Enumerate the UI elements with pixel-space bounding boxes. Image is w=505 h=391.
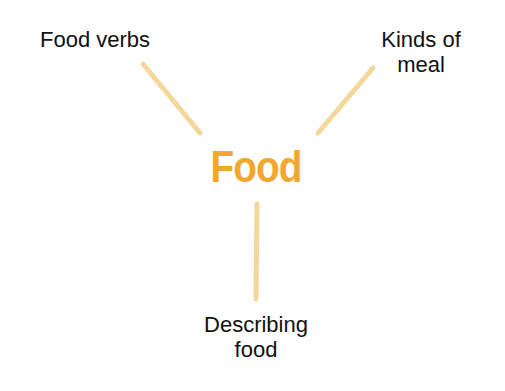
branch-label-line-2: meal [366, 52, 476, 77]
central-topic: Food [203, 142, 309, 192]
connector-describing-food [256, 204, 257, 299]
branch-food-verbs: Food verbs [40, 27, 150, 52]
connector-food-verbs [143, 64, 200, 133]
branch-label-line-1: Describing [186, 312, 326, 337]
mind-map-diagram: Food verbs Kinds of meal Food Describing… [0, 0, 505, 391]
branch-label-line-2: food [186, 337, 326, 362]
branch-label: Food verbs [40, 27, 150, 52]
branch-describing-food: Describing food [186, 312, 326, 362]
branch-kinds-of-meal: Kinds of meal [366, 27, 476, 77]
connector-kinds-of-meal [318, 68, 373, 133]
branch-label-line-1: Kinds of [366, 27, 476, 52]
